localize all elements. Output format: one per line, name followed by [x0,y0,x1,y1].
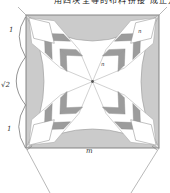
label-center-blade: n [101,61,105,67]
label-side-middle: √2 [1,81,10,89]
dimension-braces [16,17,25,148]
label-side-top: 1 [9,26,13,34]
label-corner-diamond: n [138,28,142,34]
brace-side-bottom [19,105,26,148]
brace-side-top [19,17,25,57]
label-side-bottom: 1 [7,125,11,133]
extension-line-top-right [159,7,167,15]
diagram-page: 用四块全等的布料拼接 成正方形的图案 [0,0,170,193]
extension-line-top-left [18,7,26,15]
extension-line-bottom-right [131,148,159,193]
quilt-pattern-figure: 1 √2 1 m n n [0,0,170,193]
center-dot [91,80,94,83]
brace-side-middle [16,57,25,105]
label-bottom-edge: m [86,147,93,155]
extension-line-bottom-left [26,148,50,193]
